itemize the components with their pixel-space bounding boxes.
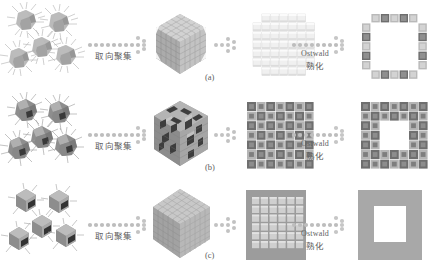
grid-block-top <box>252 223 259 225</box>
grid-block-shadow <box>262 47 270 49</box>
grid-block-top <box>261 232 268 234</box>
grid-block-top <box>253 59 261 61</box>
hollow-block-inner <box>392 162 397 167</box>
row-c-arrow2-label-en: Ostwald <box>288 230 342 239</box>
grid-block-shadow <box>271 74 279 76</box>
grid-block-inner <box>259 143 264 148</box>
hollow-block-inner <box>420 44 426 50</box>
hollow-block-inner <box>363 104 368 109</box>
hollow-block-inner <box>401 72 407 78</box>
grid-block-shadow <box>253 47 261 49</box>
grid-block-top <box>271 50 279 52</box>
hollow-block-inner <box>392 114 397 119</box>
grid-block-top <box>253 50 261 52</box>
row-b-hollow-box <box>352 90 428 181</box>
row-c-hollow-box <box>352 180 428 271</box>
hollow-block-inner <box>402 162 407 167</box>
grid-block-inner <box>259 123 264 128</box>
hollow-block-inner <box>420 62 426 68</box>
grid-block-inner <box>259 104 264 109</box>
grid-block-top <box>262 32 270 34</box>
row-a-hollow-box <box>352 0 428 91</box>
grid-block-top <box>270 197 277 199</box>
grid-block-top <box>262 41 270 43</box>
grid-block-top <box>262 59 270 61</box>
particle-item <box>0 40 38 76</box>
particle-item <box>40 4 78 40</box>
grid-block-shadow <box>262 29 270 31</box>
hollow-block-inner <box>382 162 387 167</box>
hollow-block-inner <box>411 143 416 148</box>
grid-block-shadow <box>262 74 270 76</box>
grid-block-top <box>271 14 279 16</box>
grid-block-top <box>252 215 259 217</box>
hollow-block-inner <box>421 162 426 167</box>
grid-block-top <box>262 67 270 69</box>
hollow-block-inner <box>421 114 426 119</box>
grid-block-top <box>262 23 270 25</box>
hollow-block-inner <box>373 15 379 21</box>
hollow-block-inner <box>421 152 426 157</box>
hollow-block-inner <box>382 104 387 109</box>
grid-block-top <box>271 41 279 43</box>
hollow-block-inner <box>411 162 416 167</box>
hollow-block-inner <box>363 152 368 157</box>
hollow-block-inner <box>363 143 368 148</box>
grid-block-top <box>253 32 261 34</box>
row-c-arrow1-label: 取向聚集 <box>88 232 140 241</box>
particle-item <box>7 2 45 38</box>
grid-block-top <box>252 232 259 234</box>
hollow-block-inner <box>373 72 379 78</box>
particle-item <box>47 37 85 73</box>
hollow-block-inner <box>421 104 426 109</box>
grid-block-inner <box>249 152 254 157</box>
grid-block-inner <box>268 162 273 167</box>
grid-block-shadow <box>262 38 270 40</box>
hollow-block-inner <box>421 123 426 128</box>
hollow-block-inner <box>421 143 426 148</box>
grid-block-shadow <box>262 20 270 22</box>
hollow-block-inner <box>373 104 378 109</box>
grid-block-shadow <box>253 29 261 31</box>
hollow-block-inner <box>363 34 369 40</box>
diagram-row-b: 取向聚集 <box>0 90 430 181</box>
hollow-block-inner <box>363 44 369 50</box>
hollow-block-inner <box>402 152 407 157</box>
hollow-block-inner <box>420 53 426 59</box>
grid-block-top <box>261 223 268 225</box>
grid-block-inner <box>249 114 254 119</box>
grid-block-shadow <box>271 56 279 58</box>
particle-item <box>24 209 60 242</box>
grid-block-shadow <box>271 47 279 49</box>
row-c-arrow2-label-zh: 熟化 <box>288 242 342 251</box>
grid-block-top <box>270 206 277 208</box>
grid-block-top <box>270 223 277 225</box>
grid-block-inner <box>259 162 264 167</box>
row-b-arrow2-label-en: Ostwald <box>288 140 342 149</box>
grid-block-shadow <box>271 38 279 40</box>
hollow-block-inner <box>382 15 388 21</box>
grid-block-inner <box>268 114 273 119</box>
hollow-block-inner <box>363 25 369 31</box>
grid-block-top <box>261 197 268 199</box>
grid-block-top <box>253 23 261 25</box>
grid-block-top <box>252 206 259 208</box>
row-b-particles-group <box>4 90 90 181</box>
hollow-center <box>374 206 406 242</box>
hollow-block-inner <box>411 104 416 109</box>
hollow-block-inner <box>363 62 369 68</box>
hollow-block-inner <box>373 162 378 167</box>
hollow-block-inner <box>392 15 398 21</box>
grid-block-inner <box>249 162 254 167</box>
hollow-block-inner <box>363 114 368 119</box>
panel-label-c: (c) <box>205 250 214 260</box>
row-a-arrow1-label: 取向聚集 <box>88 52 140 61</box>
grid-block-inner <box>259 114 264 119</box>
particle-item <box>1 221 37 254</box>
grid-block-inner <box>249 104 254 109</box>
particle-item <box>0 130 37 166</box>
panel-label-b: (b) <box>205 162 215 172</box>
grid-block-inner <box>268 152 273 157</box>
row-b-arrow-ostwald: Ostwald 熟化 <box>280 90 354 181</box>
row-a-arrow2-label-zh: 熟化 <box>288 62 342 71</box>
